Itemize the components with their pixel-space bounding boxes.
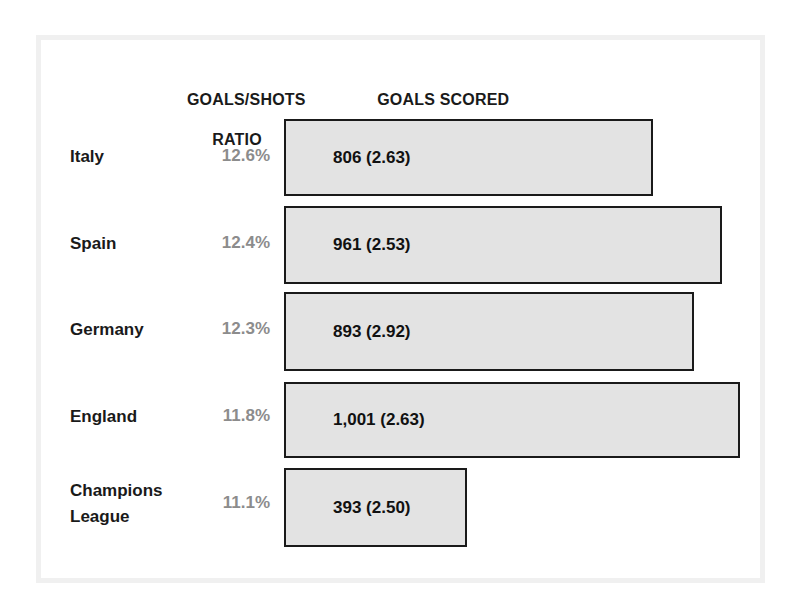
bar-value-italy: 806 (2.63) <box>333 148 411 168</box>
row-ratio-italy: 12.6% <box>150 146 270 166</box>
row-ratio-germany: 12.3% <box>150 319 270 339</box>
bar-value-spain: 961 (2.53) <box>333 235 411 255</box>
row-label-line1: Germany <box>70 320 144 339</box>
header-ratio-line1: GOALS/SHOTS <box>187 91 306 108</box>
row-ratio-england: 11.8% <box>150 406 270 426</box>
row-ratio-spain: 12.4% <box>150 233 270 253</box>
bar-value-germany: 893 (2.92) <box>333 322 411 342</box>
bar-value-england: 1,001 (2.63) <box>333 410 425 430</box>
row-ratio-champions-league: 11.1% <box>150 493 270 513</box>
row-label-line1: England <box>70 407 137 426</box>
row-label-line1: Italy <box>70 147 104 166</box>
bar-value-champions-league: 393 (2.50) <box>333 498 411 518</box>
chart-canvas: GOALS/SHOTS RATIO GOALS SCORED (GOALS PE… <box>0 0 801 614</box>
row-label-line1: Champions <box>70 481 163 500</box>
bar-champions-league: 393 (2.50) <box>284 468 467 547</box>
row-label-line1: Spain <box>70 234 116 253</box>
bar-england: 1,001 (2.63) <box>284 382 740 458</box>
bar-germany: 893 (2.92) <box>284 292 694 371</box>
bar-italy: 806 (2.63) <box>284 119 653 196</box>
bar-spain: 961 (2.53) <box>284 206 722 284</box>
header-goals-line1: GOALS SCORED <box>377 91 509 108</box>
